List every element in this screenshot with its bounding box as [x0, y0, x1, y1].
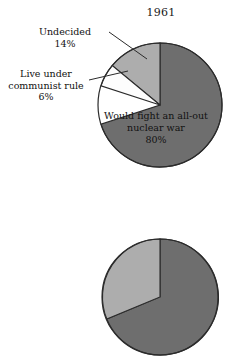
chart-panel-1961: 1961 Undecided 14% Live under communist … [0, 0, 247, 185]
chart-title-1961: 1961 [133, 6, 189, 19]
slice-label-would-fight: Would fight an all-out nuclear war 80% [92, 110, 220, 146]
slice-label-communist-rule: Live under communist rule 6% [2, 68, 90, 103]
chart-panel-1983: 1983 Would not 35% Would 65% [0, 185, 247, 360]
pie-chart-figure: 1961 Undecided 14% Live under communist … [0, 0, 247, 360]
slice-label-undecided: Undecided 14% [22, 26, 108, 49]
pie-1983-svg [0, 185, 247, 360]
